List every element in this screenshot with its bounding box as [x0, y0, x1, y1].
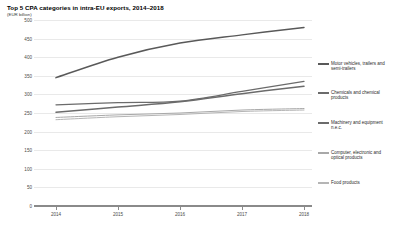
plot-area — [34, 20, 312, 206]
y-axis-tick-label: 250 — [24, 111, 32, 116]
legend-item[interactable]: Machinery and equipment n.e.c. — [318, 120, 417, 131]
y-axis-tick-label: 350 — [24, 73, 32, 78]
page-title: Top 5 CPA categories in intra-EU exports… — [7, 4, 415, 12]
series-lines — [34, 20, 312, 206]
legend-line-icon — [318, 152, 329, 153]
x-axis-tick-label: 2016 — [175, 212, 185, 217]
series-line — [56, 27, 304, 77]
legend-item-label: Chemicals and chemical products — [331, 90, 380, 101]
x-axis-tick-label: 2018 — [299, 212, 309, 217]
x-axis-tick-label: 2015 — [113, 212, 123, 217]
x-axis-tick-label: 2017 — [237, 212, 247, 217]
legend-line-icon — [318, 122, 329, 123]
y-axis-tick-label: 150 — [24, 148, 32, 153]
legend-item[interactable]: Computer, electronic and optical product… — [318, 150, 417, 161]
y-axis-tick-label: 100 — [24, 166, 32, 171]
chart-legend: Motor vehicles, trailers and semi-traile… — [318, 40, 417, 226]
series-line — [56, 86, 304, 112]
legend-item[interactable]: Food products — [318, 180, 417, 185]
legend-item[interactable]: Chemicals and chemical products — [318, 90, 417, 101]
x-axis-line — [34, 205, 312, 206]
x-axis-tick-mark — [304, 207, 305, 210]
series-line — [56, 110, 304, 120]
legend-item-label: Machinery and equipment n.e.c. — [331, 120, 383, 131]
y-axis-tick-label: 450 — [24, 36, 32, 41]
x-axis-labels: 20142015201620172018 — [34, 207, 312, 221]
x-axis-tick-mark — [118, 207, 119, 210]
chart-subtitle: (EUR billion) — [7, 12, 415, 18]
chart-figure: Top 5 CPA categories in intra-EU exports… — [0, 0, 417, 228]
y-axis-tick-label: 500 — [24, 18, 32, 23]
y-axis-tick-label: 200 — [24, 129, 32, 134]
y-axis-tick-label: 300 — [24, 92, 32, 97]
x-axis-tick-mark — [180, 207, 181, 210]
legend-line-icon — [318, 92, 329, 93]
y-axis-labels: 500450400350300250200150100500 — [0, 20, 34, 206]
legend-line-icon — [318, 182, 329, 183]
x-axis-tick-mark — [56, 207, 57, 210]
plot-wrapper: 500450400350300250200150100500 201420152… — [0, 20, 417, 226]
legend-item-label: Motor vehicles, trailers and semi-traile… — [331, 61, 385, 72]
legend-item-label: Computer, electronic and optical product… — [331, 150, 381, 161]
x-axis-tick-mark — [242, 207, 243, 210]
y-axis-tick-label: 50 — [27, 185, 32, 190]
x-axis-tick-label: 2014 — [51, 212, 61, 217]
y-axis-tick-label: 400 — [24, 55, 32, 60]
y-axis-tick-label: 0 — [29, 204, 32, 209]
legend-item-label: Food products — [331, 180, 360, 185]
legend-item[interactable]: Motor vehicles, trailers and semi-traile… — [318, 61, 417, 72]
legend-line-icon — [318, 63, 329, 64]
